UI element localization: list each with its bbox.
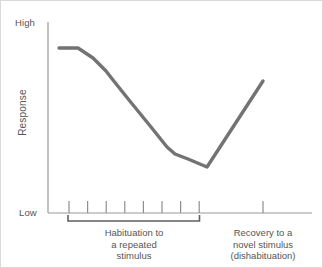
y-axis-low-label: Low: [19, 207, 37, 218]
chart-figure: High Low Response Habituation to a repea…: [0, 0, 323, 268]
x-tick-marks-habituation: [69, 201, 199, 213]
y-axis-high-label: High: [15, 17, 35, 28]
habituation-caption-line-1: Habituation to: [74, 227, 194, 239]
recovery-caption-line-3: (dishabituation): [204, 250, 322, 262]
habituation-bracket: [68, 215, 200, 221]
recovery-caption-line-2: novel stimulus: [204, 239, 322, 251]
habituation-caption-line-3: stimulus: [74, 250, 194, 262]
habituation-caption: Habituation to a repeated stimulus: [74, 227, 194, 262]
response-curve: [59, 48, 263, 167]
habituation-caption-line-2: a repeated: [74, 239, 194, 251]
y-axis-title: Response: [17, 73, 28, 153]
recovery-caption-line-1: Recovery to a: [204, 227, 322, 239]
recovery-caption: Recovery to a novel stimulus (dishabitua…: [204, 227, 322, 262]
